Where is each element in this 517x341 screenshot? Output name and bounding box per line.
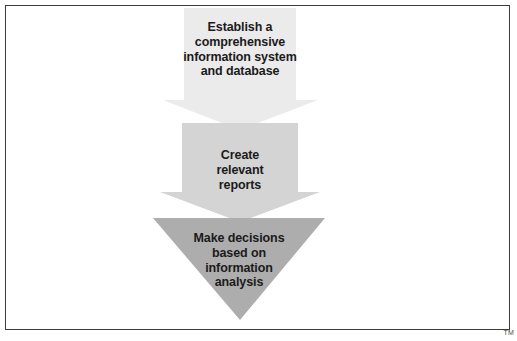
process-flow-diagram: Establish a comprehensive information sy… <box>0 0 517 341</box>
step-3-label: Make decisions based on information anal… <box>152 231 326 290</box>
step-2-label: Create relevant reports <box>160 148 320 192</box>
step-1-label: Establish a comprehensive information sy… <box>150 20 330 79</box>
trademark-mark: TM <box>503 329 514 336</box>
diagram-canvas: Establish a comprehensive information sy… <box>0 0 517 341</box>
